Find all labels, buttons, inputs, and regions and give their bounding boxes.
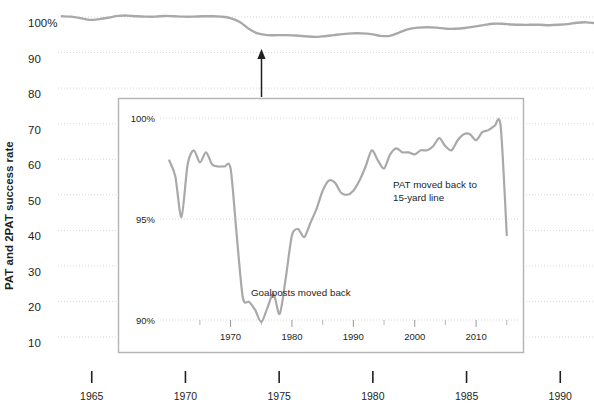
chart-canvas: 100%908070605040302010 19651970197519801… (0, 0, 594, 415)
inset-y-tick-label: 100% (131, 113, 156, 124)
annotation-pat-line1: PAT moved back to (393, 179, 477, 190)
y-tick-label: 60 (28, 159, 41, 171)
annotation-pat-line2: 15-yard line (393, 192, 445, 203)
x-tick-label: 1970 (174, 390, 198, 402)
y-tick-label: 30 (28, 266, 41, 278)
x-tick-label: 1990 (549, 390, 573, 402)
x-tick-label: 1980 (361, 390, 385, 402)
inset-frame (119, 99, 524, 353)
inset-chart: 100%95%90% 19701980199020002010 Goalpost… (119, 99, 524, 353)
inset-x-tick-label: 2000 (404, 331, 425, 342)
inset-x-tick-label: 1970 (220, 331, 241, 342)
inset-x-tick-label: 1980 (281, 331, 302, 342)
y-tick-label: 70 (28, 124, 41, 136)
inset-x-tick-label: 1990 (343, 331, 364, 342)
y-tick-label: 50 (28, 195, 41, 207)
y-tick-label: 100% (28, 17, 57, 29)
y-tick-label: 20 (28, 301, 41, 313)
annotation-goalposts: Goalposts moved back (251, 287, 351, 298)
chart-figure: 100%908070605040302010 19651970197519801… (0, 0, 594, 415)
x-tick-label: 1985 (455, 390, 479, 402)
inset-y-tick-label: 95% (136, 214, 156, 225)
y-tick-label: 40 (28, 230, 41, 242)
x-tick-label: 1975 (267, 390, 291, 402)
inset-y-tick-label: 90% (136, 315, 156, 326)
inset-x-tick-label: 2010 (466, 331, 487, 342)
y-tick-label: 90 (28, 53, 41, 65)
y-tick-label: 80 (28, 88, 41, 100)
y-tick-label: 10 (28, 337, 41, 349)
y-axis-title: PAT and 2PAT success rate (3, 141, 15, 290)
x-tick-label: 1965 (80, 390, 104, 402)
